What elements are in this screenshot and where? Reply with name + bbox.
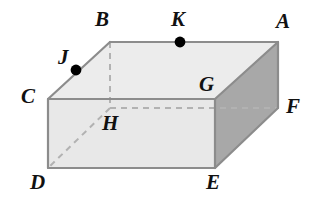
prism-drawing [0,0,309,206]
point-marker-J [71,65,82,76]
vertex-label-D: D [30,172,45,193]
vertex-label-C: C [21,86,35,107]
vertex-label-F: F [286,96,300,117]
vertex-label-H: H [102,113,118,134]
vertex-label-E: E [206,172,220,193]
point-marker-K [175,37,186,48]
vertex-label-A: A [276,11,290,32]
vertex-label-B: B [95,9,109,30]
point-label-J: J [58,47,69,68]
vertex-label-G: G [199,74,214,95]
front-face [48,99,215,168]
point-label-K: K [171,9,185,30]
rectangular-prism-figure: A B C D E F G H J K [0,0,309,206]
